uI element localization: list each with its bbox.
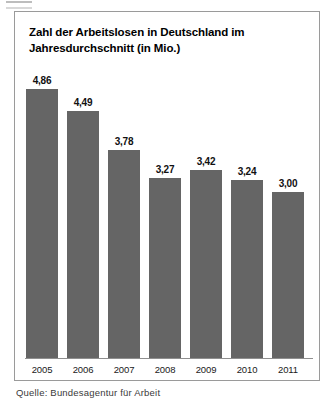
bar-rect (231, 180, 263, 358)
bar-value-label: 3,78 (101, 136, 147, 147)
x-axis-tick-label: 2005 (19, 364, 65, 375)
bar-rect (149, 178, 181, 358)
clipped-top-artifact (6, 1, 32, 3)
bar-value-label: 3,42 (183, 156, 229, 167)
x-axis-tick-label: 2006 (60, 364, 106, 375)
bar-value-label: 3,27 (142, 164, 188, 175)
bar-rect (108, 150, 140, 358)
bar-chart-plot-area: 4,86 4,49 3,78 3,27 3,42 3,24 3,00 2005 (15, 12, 321, 382)
x-axis-tick-label: 2008 (142, 364, 188, 375)
x-axis-line (25, 358, 313, 359)
clipped-top-artifact-secondary (6, 7, 32, 9)
bar-rect (190, 170, 222, 358)
bar-rect (272, 192, 304, 358)
x-axis-tick-label: 2011 (265, 364, 311, 375)
x-axis-tick-label: 2010 (224, 364, 270, 375)
x-axis-tick-label: 2009 (183, 364, 229, 375)
bar-value-label: 3,00 (265, 178, 311, 189)
bar-value-label: 3,24 (224, 166, 270, 177)
bar-rect (67, 111, 99, 358)
bar-rect (26, 89, 58, 358)
x-axis-tick-label: 2007 (101, 364, 147, 375)
bar-value-label: 4,49 (60, 97, 106, 108)
chart-card: Zahl der Arbeitslosen in Deutschland im … (14, 11, 320, 381)
bar-value-label: 4,86 (19, 75, 65, 86)
source-note: Quelle: Bundesagentur für Arbeit (16, 387, 160, 398)
